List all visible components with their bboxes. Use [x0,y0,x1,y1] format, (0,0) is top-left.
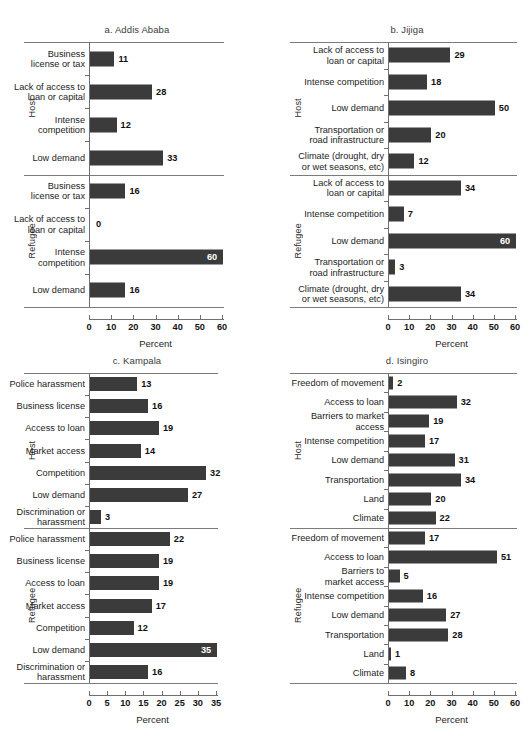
x-axis-tick [452,315,453,319]
bar-value-label: 11 [118,54,128,64]
bar-value-label: 34 [465,289,475,299]
plot-frame-line [290,42,517,43]
x-axis-tick [222,315,223,319]
bar-value-label: 28 [452,630,462,640]
category-label: Climate [266,668,384,678]
category-label: Transportation [266,629,384,639]
x-axis-tick-label: 20 [425,322,435,332]
plot-frame-line [24,373,218,374]
panel-isingiro: d. Isingiro HostFreedom of movement2Acce… [266,355,532,738]
bar-value-label: 18 [431,77,441,87]
bar-value-label: 31 [459,455,469,465]
bar-value-label: 19 [163,578,173,588]
y-axis-tick [384,148,388,149]
x-axis-tick-label: 50 [489,698,499,708]
bar-value-label: 17 [429,436,439,446]
category-label: Low demand [1,285,85,295]
bar-value-label: 27 [192,490,202,500]
x-axis-tick-label: 35 [211,698,221,708]
category-label: Access to loan [266,552,384,562]
y-axis-tick [85,274,89,275]
x-axis-tick-label: 10 [404,698,414,708]
x-axis-tick-label: 50 [195,322,205,332]
y-axis-tick [85,108,89,109]
y-axis-tick [384,547,388,548]
x-axis-tick [515,315,516,319]
bar-value-label: 16 [152,401,162,411]
bar [389,260,395,275]
bar [90,576,159,590]
x-axis-tick-label: 0 [385,698,390,708]
category-label: Lack of access to loan or capital [1,81,85,102]
panel-jijiga: b. Jijiga HostLack of access to loan or … [266,0,532,355]
category-label: Land [266,649,384,659]
y-axis-tick [85,661,89,662]
x-axis-tick [125,691,126,695]
plot-frame-line [290,175,517,176]
y-axis-tick [384,567,388,568]
y-axis-tick [384,228,388,229]
bar [90,117,117,132]
bar-value-label: 8 [410,668,415,678]
category-label: Access to loan [1,578,85,588]
x-axis-tick [200,315,201,319]
category-label: Competition [1,467,85,477]
bar-value-label: 13 [141,379,151,389]
category-label: Transportation or road infrastructure [292,124,384,145]
bar [389,127,431,142]
category-label: Business license or tax [1,181,85,202]
category-label: Intense competition [266,436,384,446]
y-axis-tick [384,95,388,96]
x-axis-tick-label: 60 [510,322,520,332]
x-axis-tick [494,691,495,695]
category-label: Access to loan [1,423,85,433]
x-axis-line [388,695,517,696]
plot-area-b: HostLack of access to loan or capital29I… [266,0,532,355]
bar-value-label: 19 [163,423,173,433]
bar-value-label: 29 [454,50,464,60]
bar [90,250,223,265]
x-axis-tick [515,691,516,695]
x-axis-tick-label: 30 [446,322,456,332]
y-axis-tick [384,644,388,645]
plot-frame-line [24,683,218,684]
plot-frame-line [24,528,218,529]
x-axis-tick-label: 50 [489,322,499,332]
x-axis-tick [409,315,410,319]
y-axis-tick [384,281,388,282]
category-label: Low demand [292,236,384,246]
bar-value-label: 35 [201,645,211,655]
x-axis-tick-label: 40 [173,322,183,332]
category-label: Climate (drought, dry or wet seasons, et… [292,283,384,304]
y-axis-tick [384,201,388,202]
bar [389,74,427,89]
y-axis-tick [85,141,89,142]
y-axis-tick [384,392,388,393]
bar [389,609,446,622]
category-label: Transportation [266,474,384,484]
x-axis-tick-label: 40 [468,698,478,708]
bar [389,376,393,389]
category-label: Lack of access to loan or capital [292,177,384,198]
bar-value-label: 0 [96,219,101,229]
bar-value-label: 33 [167,153,177,163]
x-axis-tick [430,691,431,695]
panel-addis-ababa: a. Addis Ababa HostBusiness license or t… [0,0,266,355]
x-axis-tick [430,315,431,319]
category-label: Freedom of movement [266,377,384,387]
bar-value-label: 19 [433,416,443,426]
bar-value-label: 1 [395,649,400,659]
bar [389,454,455,467]
x-axis-tick-label: 20 [425,698,435,708]
bar-value-label: 20 [435,130,445,140]
bar-value-label: 16 [129,285,139,295]
y-axis-tick [85,617,89,618]
plot-area-d: HostFreedom of movement2Access to loan32… [266,355,532,738]
bar-value-label: 50 [499,103,509,113]
x-axis-tick-label: 20 [156,698,166,708]
x-axis-tick [473,315,474,319]
x-axis-tick-label: 30 [193,698,203,708]
y-axis-tick [384,470,388,471]
category-label: Low demand [292,103,384,113]
category-label: Discrimination or harassment [1,507,85,528]
